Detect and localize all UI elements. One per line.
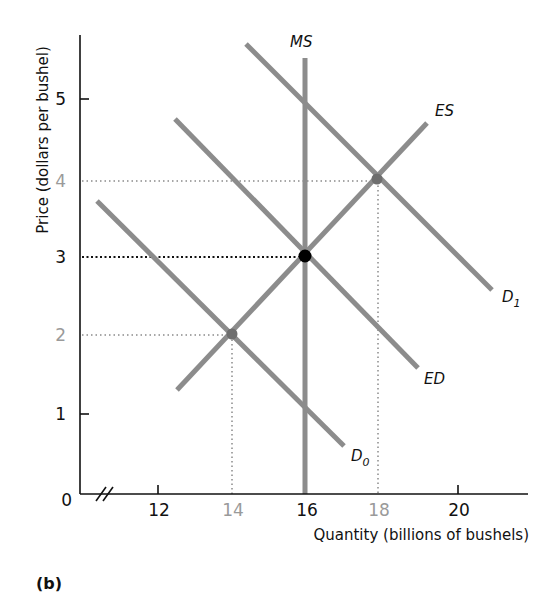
curves (97, 44, 492, 494)
label-ms: MS (290, 33, 313, 51)
y-tick-label-0: 0 (61, 490, 72, 510)
y-tick-label-1: 1 (55, 404, 66, 424)
x-tick-label-16: 16 (296, 500, 318, 520)
y-tick-label-2: 2 (55, 325, 66, 345)
point-16-3-equilibrium (299, 250, 312, 263)
y-tick-label-3: 3 (55, 247, 66, 267)
label-d0-main: D (351, 447, 363, 465)
label-ed: ED (424, 370, 445, 388)
label-d1: D1 (502, 288, 521, 310)
x-tick-label-14: 14 (222, 500, 244, 520)
label-es: ES (435, 102, 454, 120)
x-tick-label-20: 20 (448, 500, 470, 520)
x-tick-label-12: 12 (148, 500, 170, 520)
y-axis-title: Price (dollars per bushel) (34, 46, 52, 233)
curve-ed (175, 119, 418, 368)
curve-d1 (246, 44, 492, 290)
x-axis-title: Quantity (billions of bushels) (313, 526, 529, 544)
label-d1-sub: 1 (514, 297, 521, 310)
panel-label: (b) (36, 574, 62, 592)
label-d1-main: D (502, 288, 514, 306)
label-d0-sub: 0 (363, 456, 370, 469)
point-18-4 (372, 174, 383, 185)
y-tick-label-4: 4 (55, 171, 66, 191)
y-tick-labels: 5 4 3 2 1 0 (55, 89, 72, 510)
chart: 5 4 3 2 1 0 12 14 16 18 20 Quantity (bil… (0, 0, 558, 592)
point-14-2 (227, 329, 238, 340)
y-tick-label-5: 5 (55, 89, 66, 109)
label-d0: D0 (351, 447, 370, 469)
x-tick-label-18: 18 (368, 500, 390, 520)
x-tick-labels: 12 14 16 18 20 (148, 500, 470, 520)
